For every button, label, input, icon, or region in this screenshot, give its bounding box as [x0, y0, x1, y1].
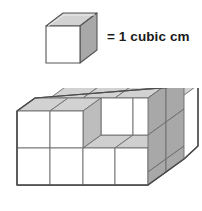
front-cell-r1c1	[17, 111, 50, 148]
diagram-canvas: = 1 cubic cm	[0, 0, 202, 211]
front-cell-r2c3	[83, 148, 115, 185]
front-cell-r2c4	[115, 148, 148, 185]
front-cell-r1c2	[50, 111, 83, 148]
composite-solid-figure	[0, 88, 202, 211]
unit-cube-icon	[46, 13, 97, 63]
solid-right-face	[148, 88, 184, 185]
notch-back-wall-cell-1	[101, 98, 133, 135]
unit-cube-front-face	[46, 26, 80, 63]
front-cell-r2c2	[50, 148, 83, 185]
legend-equals-label: = 1 cubic cm	[107, 28, 202, 46]
front-cell-r2c1	[17, 148, 50, 185]
